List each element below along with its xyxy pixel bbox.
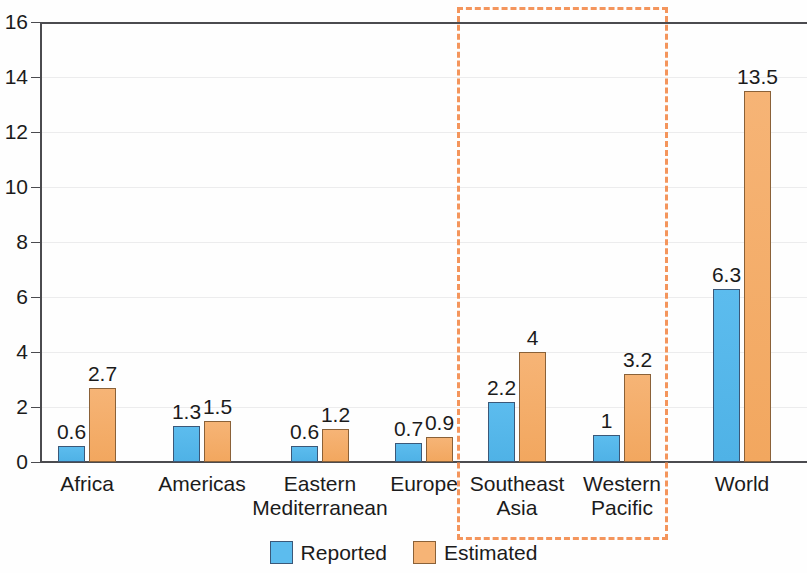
bar-value-label: 3.2 [615,349,660,370]
bar-value-label: 4 [510,327,555,348]
bar-estimated-western-pacific [624,374,651,462]
gridline [40,242,807,243]
bar-value-label: 1 [584,410,629,431]
y-axis-tick-label: 10 [0,176,28,197]
legend-swatch-reported-icon [270,541,293,564]
chart-legend: ReportedEstimated [0,541,807,564]
bar-estimated-europe [426,437,453,462]
bar-reported-europe [395,443,422,462]
bar-estimated-southeast-asia [519,352,546,462]
bar-estimated-americas [204,421,231,462]
plot-area: 0246810121416 0.62.71.31.50.61.20.70.92.… [0,0,807,573]
bar-reported-southeast-asia [488,402,515,463]
bar-reported-western-pacific [593,435,620,463]
y-axis-tick-label: 6 [0,286,28,307]
y-axis-tick-label: 14 [0,66,28,87]
bar-value-label: 1.5 [195,396,240,417]
y-axis-line [40,22,42,463]
bar-value-label: 2.7 [80,363,125,384]
bar-estimated-eastern-mediterranean [322,429,349,462]
bar-value-label: 6.3 [704,264,749,285]
legend-swatch-estimated-icon [413,541,436,564]
gridline [40,297,807,298]
bar-reported-eastern-mediterranean [291,446,318,463]
y-axis-tick-label: 16 [0,11,28,32]
gridline [40,77,807,78]
legend-item-reported: Reported [270,541,387,564]
bar-value-label: 13.5 [735,66,780,87]
legend-label: Reported [301,542,387,563]
legend-item-estimated: Estimated [413,541,537,564]
bar-reported-africa [58,446,85,463]
gridline [40,132,807,133]
bar-value-label: 1.2 [313,404,358,425]
bar-reported-world [713,289,740,462]
bar-reported-americas [173,426,200,462]
bar-chart: 0246810121416 0.62.71.31.50.61.20.70.92.… [0,0,807,573]
gridline [40,187,807,188]
y-axis-tick-label: 2 [0,396,28,417]
bar-estimated-world [744,91,771,462]
bar-value-label: 2.2 [479,377,524,398]
gridline [40,407,807,408]
y-axis-tick-label: 8 [0,231,28,252]
plot-top-border [40,22,807,24]
y-axis-tick-label: 0 [0,451,28,472]
legend-label: Estimated [444,542,537,563]
x-axis-category-label: World [667,472,807,496]
bar-estimated-africa [89,388,116,462]
gridline [40,352,807,353]
x-axis-line [40,461,807,463]
y-axis-tick-label: 4 [0,341,28,362]
bar-value-label: 0.6 [49,421,94,442]
bar-value-label: 0.9 [417,412,462,433]
y-axis-tick-label: 12 [0,121,28,142]
